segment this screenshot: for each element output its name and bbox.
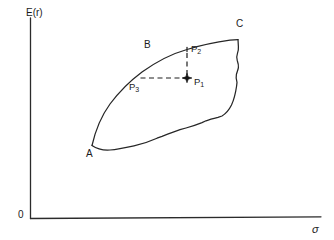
p1-subscript: 1: [200, 81, 204, 88]
point-label-p1: P1: [194, 77, 204, 87]
x-axis-label: σ: [312, 224, 319, 235]
point-label-b: B: [144, 40, 151, 50]
point-label-p2: P2: [191, 44, 201, 54]
y-axis-label: E(r): [26, 8, 43, 18]
point-label-a: A: [86, 149, 93, 159]
p3-subscript: 3: [135, 86, 139, 93]
origin-label: 0: [18, 210, 24, 220]
p1-star-marker: [182, 73, 192, 83]
point-label-c: C: [236, 19, 243, 29]
p2-subscript: 2: [197, 48, 201, 55]
plot-canvas: [0, 0, 334, 240]
inefficient-boundary-curve: [92, 40, 239, 150]
efficient-frontier-figure: E(r) σ 0 A B C P1 P2 P3: [0, 0, 334, 240]
x-axis-line: [31, 217, 322, 219]
efficient-frontier-curve: [92, 40, 238, 146]
point-label-p3: P3: [129, 82, 139, 92]
